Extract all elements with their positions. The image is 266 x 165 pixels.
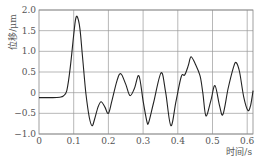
displacement-chart: 2.01.51.00.50−0.5−1.0 00.10.20.30.40.50.… xyxy=(0,0,266,165)
x-tick-label: 0.6 xyxy=(240,136,255,146)
y-tick-label: 2.0 xyxy=(22,5,37,15)
x-tick-label: 0.1 xyxy=(67,136,81,146)
y-tick-label: −1.0 xyxy=(14,129,36,139)
x-tick-label: 0 xyxy=(36,136,42,146)
y-tick-label: 0 xyxy=(30,88,36,98)
x-axis-label: 时间/s xyxy=(226,146,252,157)
x-tick-label: 0.4 xyxy=(171,136,186,146)
y-tick-label: 1.5 xyxy=(22,26,37,36)
y-tick-label: 0.5 xyxy=(22,67,37,77)
y-tick-label: −0.5 xyxy=(14,108,36,118)
displacement-line xyxy=(39,16,253,126)
x-tick-label: 0.3 xyxy=(136,136,151,146)
x-axis-ticks: 00.10.20.30.40.50.6 xyxy=(36,136,254,146)
x-tick-label: 0.2 xyxy=(101,136,115,146)
y-axis-label: 位移/μm xyxy=(7,14,18,50)
y-tick-label: 1.0 xyxy=(22,46,37,56)
x-tick-label: 0.5 xyxy=(205,136,220,146)
